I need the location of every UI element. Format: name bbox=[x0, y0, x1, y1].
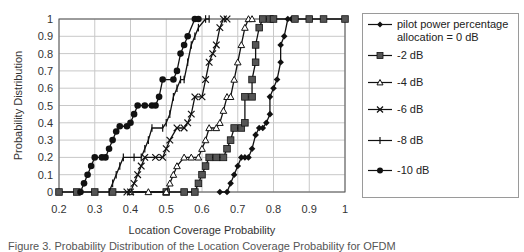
y-tick-label: 0.8 bbox=[38, 48, 53, 60]
y-tick-label: 0 bbox=[47, 186, 53, 198]
legend-label: pilot power percentage allocation = 0 dB bbox=[397, 18, 508, 44]
x-tick-label: 1 bbox=[342, 203, 348, 215]
legend: pilot power percentage allocation = 0 dB… bbox=[362, 13, 519, 198]
x-tick-label: 0.9 bbox=[302, 203, 317, 215]
legend-label: -6 dB bbox=[397, 103, 423, 116]
y-tick-label: 1 bbox=[47, 13, 53, 25]
y-tick-label: 0.3 bbox=[38, 134, 53, 146]
legend-item: -10 dB bbox=[367, 164, 429, 177]
y-tick-label: 0.1 bbox=[38, 169, 53, 181]
x-tick-label: 0.4 bbox=[123, 203, 138, 215]
x-tick-label: 0.6 bbox=[194, 203, 209, 215]
y-axis-label: Probability Distribution bbox=[12, 51, 24, 160]
legend-item: -2 dB bbox=[367, 49, 423, 62]
x-marker-icon bbox=[367, 103, 393, 116]
legend-item: -4 dB bbox=[367, 76, 423, 89]
legend-label: -4 dB bbox=[397, 76, 423, 89]
circle-marker-icon bbox=[367, 164, 393, 177]
figure-caption: Figure 3. Probability Distribution of th… bbox=[8, 240, 396, 252]
y-tick-label: 0.4 bbox=[38, 117, 53, 129]
legend-label: -8 dB bbox=[397, 134, 423, 147]
x-tick-label: 0.3 bbox=[87, 203, 102, 215]
x-tick-label: 0.5 bbox=[159, 203, 174, 215]
x-tick-label: 0.7 bbox=[230, 203, 245, 215]
diamond-marker-icon bbox=[367, 18, 393, 31]
legend-label: -2 dB bbox=[397, 49, 423, 62]
legend-label: -10 dB bbox=[397, 164, 429, 177]
x-tick-label: 0.2 bbox=[51, 203, 66, 215]
square-marker-icon bbox=[367, 49, 393, 62]
plus-marker-icon bbox=[367, 134, 393, 147]
x-axis-label: Location Coverage Probability bbox=[129, 224, 276, 236]
legend-item: -8 dB bbox=[367, 134, 423, 147]
y-tick-label: 0.2 bbox=[38, 151, 53, 163]
legend-item: -6 dB bbox=[367, 103, 423, 116]
y-tick-label: 0.6 bbox=[38, 82, 53, 94]
legend-item: pilot power percentage allocation = 0 dB bbox=[367, 18, 508, 44]
y-tick-label: 0.9 bbox=[38, 30, 53, 42]
x-tick-label: 0.8 bbox=[266, 203, 281, 215]
y-tick-label: 0.7 bbox=[38, 65, 53, 77]
triangle-marker-icon bbox=[367, 76, 393, 89]
y-tick-label: 0.5 bbox=[38, 100, 53, 112]
